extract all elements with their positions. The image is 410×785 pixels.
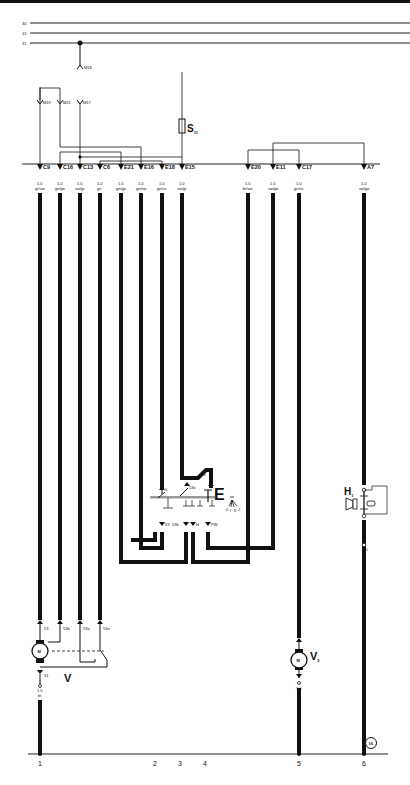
- svg-text:C17: C17: [302, 164, 312, 170]
- track-4: 4: [203, 760, 207, 767]
- wiper-motor-v: 53 53b 53a 53e M V 31 1.5 br: [32, 620, 110, 698]
- motor-ground-terminal: 31: [44, 673, 49, 678]
- ground-label-m19: M19: [43, 100, 52, 105]
- connector-e21: E21 1.0 gn/ge: [116, 164, 134, 191]
- switch-position-0: 0: [226, 507, 229, 512]
- svg-text:gn/sw: gn/sw: [136, 186, 147, 191]
- switch-terminal-53b: 53b: [172, 522, 179, 527]
- connector-e18: E18 1.0 gn/ro: [157, 164, 175, 191]
- motor-terminal-53a: 53a: [83, 626, 90, 631]
- ground-label-m18: M18: [84, 65, 93, 70]
- horn-label: H1: [344, 486, 354, 498]
- fuse-s11: S11: [179, 72, 199, 164]
- svg-text:E11: E11: [276, 164, 285, 170]
- connector-c17: C17 1.0 gn/ro: [294, 164, 312, 191]
- svg-text:sw/gr: sw/gr: [75, 186, 85, 191]
- svg-text:E15: E15: [185, 164, 195, 170]
- motor-terminal-53: 53: [44, 626, 49, 631]
- svg-text:A7: A7: [367, 164, 374, 170]
- connector-e11: E11 1.0 sw/ge: [268, 164, 285, 191]
- bus-label-31: 31: [22, 41, 27, 46]
- switch-terminal-53: 53: [165, 522, 170, 527]
- track-6: 6: [362, 760, 366, 767]
- svg-text:sw/ge: sw/ge: [268, 186, 279, 191]
- svg-text:sw/gr: sw/gr: [177, 186, 187, 191]
- ground-label-m17: M17: [83, 100, 92, 105]
- switch-top-size: 1.0: [200, 472, 206, 477]
- switch-position-2: 2: [238, 507, 241, 512]
- track-3: 3: [178, 760, 182, 767]
- track-1: 1: [38, 760, 42, 767]
- svg-text:C6: C6: [103, 164, 110, 170]
- svg-text:br/ws: br/ws: [243, 186, 253, 191]
- connector-c9: C9 1.0 gr/sw: [35, 164, 50, 191]
- wire-e15: [182, 193, 211, 488]
- switch-terminal-h: H: [196, 522, 199, 527]
- wire-e16: [141, 193, 162, 548]
- ground-point-16: 16: [366, 738, 377, 749]
- current-track-numbers: 1 2 3 4 5 6: [38, 760, 366, 767]
- svg-text:C13: C13: [83, 164, 93, 170]
- svg-text:C9: C9: [43, 164, 50, 170]
- washer-motor-v5: M V5 1.0 br: [291, 638, 320, 695]
- jumper-wires: [60, 143, 364, 164]
- svg-text:gn/ro: gn/ro: [157, 186, 167, 191]
- switch-label-e: E: [214, 486, 225, 503]
- connector-e20: E20 1.0 br/ws: [243, 164, 261, 191]
- svg-text:gr/sw: gr/sw: [35, 186, 45, 191]
- svg-text:E21: E21: [124, 164, 134, 170]
- fuse-label: S11: [187, 123, 199, 135]
- wiper-motor-label: V: [64, 672, 72, 684]
- svg-text:C16: C16: [63, 164, 73, 170]
- wiring-diagram: 30 15 31 M18 M19 M21 M17 S11: [0, 0, 410, 785]
- switch-terminal-pw: PW: [211, 522, 218, 527]
- svg-text:br: br: [38, 693, 42, 698]
- top-border: [0, 0, 410, 3]
- switch-position-i: I: [230, 508, 231, 513]
- svg-text:gn/ro: gn/ro: [294, 186, 304, 191]
- track-2: 2: [153, 760, 157, 767]
- upper-ground-points: M19 M21 M17: [37, 87, 92, 164]
- svg-text:E18: E18: [165, 164, 175, 170]
- connector-labels: C9 1.0 gr/sw C16 1.0 gn/ge C13 1.0 sw/gr…: [35, 164, 374, 191]
- bus-label-15: 15: [22, 31, 27, 36]
- motor-terminal-53b: 53b: [63, 626, 70, 631]
- switch-terminal-53e: 53e: [189, 485, 196, 490]
- motor-terminal-53e: 53e: [103, 626, 110, 631]
- wire-e21: [121, 193, 186, 562]
- switch-position-icon: [229, 497, 237, 507]
- track-5: 5: [297, 760, 301, 767]
- washer-motor-label: V5: [310, 650, 320, 663]
- connector-c16: C16 1.0 gn/ge: [55, 164, 73, 191]
- svg-text:gn/ge: gn/ge: [116, 186, 127, 191]
- svg-text:E16: E16: [144, 164, 154, 170]
- connector-c6: C6 1.0 gn: [97, 164, 110, 191]
- connector-c13: C13 1.0 sw/gr: [75, 164, 93, 191]
- connector-a7: A7 1.0 sw/ge: [359, 164, 374, 191]
- svg-text:gn/ge: gn/ge: [55, 186, 66, 191]
- switch-position-ii: II: [234, 508, 236, 513]
- ground-label-m21: M21: [63, 100, 72, 105]
- ground-connection-m18: M18: [77, 41, 93, 71]
- connector-e15: E15 1.0 sw/gr: [177, 164, 195, 191]
- svg-text:sw/ge: sw/ge: [359, 186, 370, 191]
- svg-text:E20: E20: [251, 164, 261, 170]
- svg-text:16: 16: [369, 741, 374, 746]
- bus-label-30: 30: [22, 21, 27, 26]
- switch-terminal-5: 5: [165, 487, 168, 492]
- svg-text:gn: gn: [97, 186, 101, 191]
- connector-e16: E16 1.0 gn/sw: [136, 164, 154, 191]
